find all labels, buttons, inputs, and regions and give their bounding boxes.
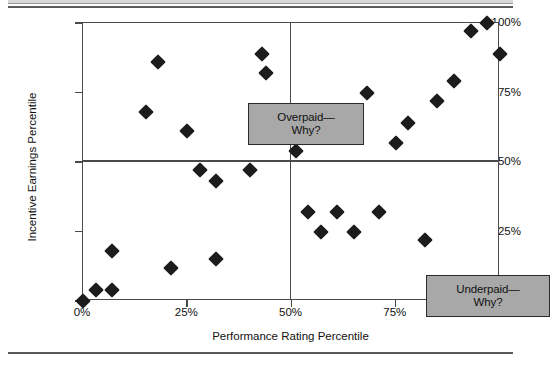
data-point [104,282,120,298]
plot-area: Overpaid— Why? Underpaid— Why? [82,22,499,300]
figure-top-rule [8,6,513,8]
data-point [400,115,416,131]
data-point [417,232,433,248]
annotation-underpaid-line-2: Why? [474,296,503,309]
figure-bottom-rule [8,352,513,354]
data-point [255,46,271,62]
x-tick-label-50: 50% [261,306,321,318]
y-axis-title: Incentive Earnings Percentile [26,52,38,282]
data-point [330,204,346,220]
y-tick-25 [75,231,82,233]
data-point [163,260,179,276]
annotation-overpaid-line-2: Why? [292,124,321,137]
data-point [430,93,446,109]
y-tick-75 [75,92,82,94]
data-point [359,85,375,101]
data-point [463,24,479,40]
y-tick-50 [75,161,82,163]
data-point [446,74,462,90]
data-point [492,46,508,62]
data-point [138,104,154,120]
data-point [371,204,387,220]
data-point [259,65,275,81]
data-point [150,54,166,70]
x-axis-title: Performance Rating Percentile [82,330,499,342]
data-point [388,135,404,151]
annotation-underpaid-line-1: Underpaid— [456,283,520,296]
x-tick-label-25: 25% [156,306,216,318]
annotation-underpaid: Underpaid— Why? [426,275,550,317]
data-point [209,252,225,268]
data-point [346,224,362,240]
reference-line-horizontal-50 [83,160,498,162]
annotation-overpaid-line-1: Overpaid— [277,111,334,124]
page-top-sliver [8,0,513,4]
data-point [313,224,329,240]
data-point [242,163,258,179]
data-point [192,163,208,179]
x-tick-label-75: 75% [365,306,425,318]
y-tick-100 [75,22,82,24]
data-point [88,282,104,298]
data-point [300,204,316,220]
data-point [104,243,120,259]
data-point [179,124,195,140]
data-point [209,174,225,190]
annotation-overpaid: Overpaid— Why? [248,103,364,145]
